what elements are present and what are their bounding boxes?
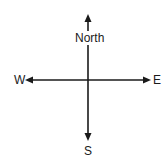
north-arrowhead-icon <box>85 14 92 22</box>
east-arrowhead-icon <box>143 77 151 84</box>
south-arrowhead-icon <box>85 133 92 141</box>
west-label: W <box>14 74 25 86</box>
west-arrowhead-icon <box>25 77 33 84</box>
east-label: E <box>153 74 161 86</box>
south-label: S <box>84 145 92 157</box>
north-label: North <box>75 32 104 44</box>
